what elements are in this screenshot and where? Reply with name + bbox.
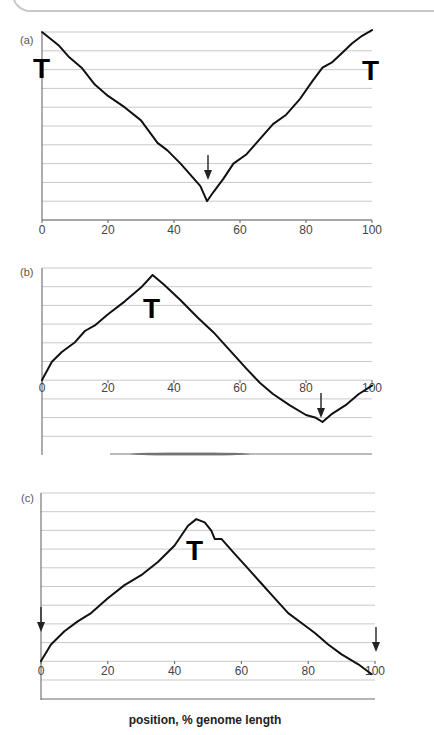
x-tick-label: 40 xyxy=(167,223,181,237)
x-tick-label: 60 xyxy=(235,664,249,678)
panel-a-x-ticks: 020406080100 xyxy=(39,220,383,237)
panel-c-label: (c) xyxy=(21,492,34,504)
panel-c-x-ticks: 020406080100 xyxy=(38,661,386,678)
panel-a-terminus-left: T xyxy=(33,53,50,84)
panel-b-x-ticks: 020406080100 xyxy=(39,380,383,395)
panel-a-terminus-right: T xyxy=(362,55,379,86)
x-axis-title: position, % genome length xyxy=(129,713,282,727)
panel-c-gridlines xyxy=(41,493,375,680)
panel-b: 020406080100 (b) T xyxy=(20,266,382,456)
x-tick-label: 0 xyxy=(39,381,46,395)
x-tick-label: 80 xyxy=(302,664,316,678)
x-tick-label: 80 xyxy=(299,381,313,395)
x-tick-label: 60 xyxy=(233,381,247,395)
panel-a-gridlines xyxy=(42,32,372,220)
panel-b-label: (b) xyxy=(20,266,33,278)
x-tick-label: 60 xyxy=(233,223,247,237)
scan-smudge xyxy=(130,452,250,455)
panel-a: 020406080100 (a) T T xyxy=(20,30,382,237)
x-tick-label: 100 xyxy=(362,381,382,395)
panel-a-label: (a) xyxy=(20,34,33,46)
x-tick-label: 20 xyxy=(101,664,115,678)
arrow-down-icon xyxy=(372,627,380,652)
x-tick-label: 20 xyxy=(101,223,115,237)
arrow-down-icon xyxy=(37,607,45,632)
panel-c-terminus: T xyxy=(186,535,203,566)
x-tick-label: 100 xyxy=(362,223,382,237)
x-tick-label: 20 xyxy=(101,381,115,395)
x-tick-label: 0 xyxy=(39,223,46,237)
arrow-down-icon xyxy=(204,155,212,180)
x-tick-label: 0 xyxy=(38,664,45,678)
x-tick-label: 40 xyxy=(167,381,181,395)
panel-c: 020406080100 (c) T position, % genome le… xyxy=(21,492,385,727)
panel-b-curve xyxy=(42,275,372,422)
x-tick-label: 40 xyxy=(168,664,182,678)
x-tick-label: 80 xyxy=(299,223,313,237)
panel-b-terminus: T xyxy=(143,293,160,324)
arrow-down-icon xyxy=(317,393,325,418)
panel-c-curve xyxy=(41,519,372,674)
